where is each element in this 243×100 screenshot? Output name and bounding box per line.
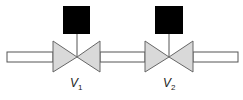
- pipe-right: [193, 52, 238, 62]
- pipe-left: [7, 52, 53, 62]
- valve-body-right-2: [169, 41, 193, 72]
- valve-diagram: [0, 0, 243, 100]
- valve-1-label: V1: [70, 76, 82, 92]
- valve-body-left-2: [145, 41, 169, 72]
- valve-1: [53, 6, 100, 72]
- pipe-middle: [100, 52, 145, 62]
- valve-2: [145, 6, 193, 72]
- valve-body-right-1: [77, 41, 100, 72]
- actuator-2: [155, 6, 183, 34]
- valve-2-label: V2: [163, 76, 175, 92]
- valve-body-left-1: [53, 41, 77, 72]
- actuator-1: [63, 6, 90, 34]
